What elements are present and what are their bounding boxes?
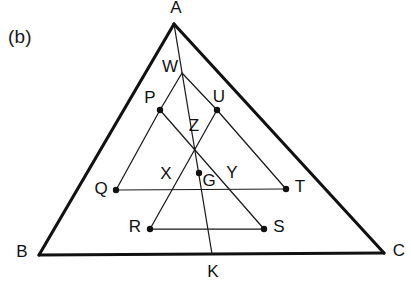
- point-label-k: K: [207, 262, 219, 281]
- vertex-label-b: B: [16, 242, 27, 261]
- point-label-r: R: [129, 217, 141, 236]
- point-label-q: Q: [94, 179, 107, 198]
- vertex-label-c: C: [393, 241, 405, 260]
- point-dot-u: [214, 107, 220, 113]
- point-label-s: S: [273, 217, 284, 236]
- point-label-w: W: [162, 57, 178, 76]
- region-label-y: Y: [226, 163, 237, 182]
- point-dot-t: [283, 186, 289, 192]
- point-label-u: U: [213, 87, 225, 106]
- point-dot-s: [261, 226, 267, 232]
- outer-triangle-edges: [39, 24, 384, 255]
- point-label-g: G: [202, 171, 215, 190]
- point-label-p: P: [144, 88, 155, 107]
- segment-p-q: [116, 110, 160, 190]
- point-dot-g: [196, 170, 202, 176]
- segment-p-s: [160, 110, 264, 229]
- edge-ab: [39, 24, 174, 255]
- segment-w-p: [160, 73, 182, 110]
- point-label-z: Z: [189, 116, 199, 135]
- region-label-x: X: [160, 164, 171, 183]
- panel-label: (b): [8, 26, 32, 48]
- point-label-t: T: [295, 177, 305, 196]
- point-dot-q: [113, 187, 119, 193]
- figure-container: ABC WPUZGQTRSK XY (b): [0, 0, 411, 292]
- point-dot-p: [157, 107, 163, 113]
- point-markers: [113, 107, 289, 232]
- segment-q-t: [116, 189, 286, 190]
- point-dot-r: [147, 226, 153, 232]
- inner-cevian-lines: [116, 24, 286, 254]
- vertex-label-a: A: [170, 0, 182, 17]
- triangle-vertex-labels: ABC: [16, 0, 405, 261]
- geometric-diagram: ABC WPUZGQTRSK XY: [0, 0, 411, 292]
